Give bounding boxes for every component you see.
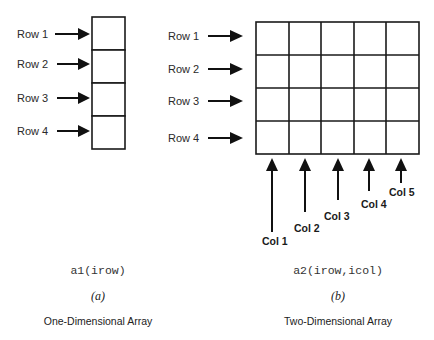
arrow-right-icon [208, 63, 243, 75]
two-d-col-label-2: Col 2 [294, 222, 320, 234]
arrow-up-icon [266, 158, 278, 232]
two-d-row-label-1: Row 1 [168, 30, 199, 42]
arrow-right-icon [55, 28, 90, 40]
two-d-title: Two-Dimensional Array [284, 315, 393, 327]
two-d-caption: (b) [331, 289, 345, 303]
one-d-caption: (a) [91, 289, 105, 303]
two-d-expression: a2(irow,icol) [293, 264, 383, 277]
two-d-row-label-4: Row 4 [168, 132, 199, 144]
one-d-row-label-4: Row 4 [17, 125, 48, 137]
arrow-up-icon [363, 158, 375, 191]
two-d-col-label-1: Col 1 [262, 235, 288, 247]
one-d-title: One-Dimensional Array [44, 315, 153, 327]
one-d-row-label-3: Row 3 [17, 92, 48, 104]
arrow-up-icon [299, 158, 311, 212]
one-d-cell-1 [92, 17, 125, 50]
two-d-col-label-4: Col 4 [361, 198, 387, 210]
two-d-col-label-5: Col 5 [389, 186, 415, 198]
array-diagram: Row 1 Row 2 Row 3 Row 4 [0, 0, 434, 340]
one-d-row-label-2: Row 2 [17, 58, 48, 70]
two-d-array: Row 1 Row 2 Row 3 Row 4 [168, 22, 419, 247]
one-d-cell-3 [92, 83, 125, 116]
one-d-expression: a1(irow) [70, 264, 125, 277]
one-d-row-label-1: Row 1 [17, 28, 48, 40]
arrow-up-icon [332, 158, 344, 200]
arrow-right-icon [57, 92, 90, 104]
arrow-right-icon [208, 95, 243, 107]
arrow-up-icon [395, 158, 407, 183]
arrow-right-icon [208, 30, 243, 42]
one-d-cell-2 [92, 50, 125, 83]
arrow-right-icon [208, 132, 243, 144]
arrow-right-icon [57, 125, 90, 137]
one-d-array: Row 1 Row 2 Row 3 Row 4 [17, 17, 125, 149]
two-d-col-label-3: Col 3 [324, 210, 350, 222]
one-d-cell-4 [92, 116, 125, 149]
two-d-row-label-2: Row 2 [168, 63, 199, 75]
arrow-right-icon [57, 58, 90, 70]
two-d-row-label-3: Row 3 [168, 95, 199, 107]
